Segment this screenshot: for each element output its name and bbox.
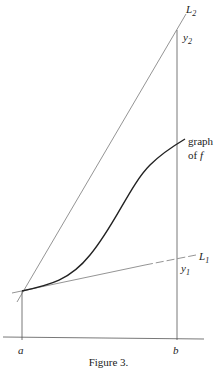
figure-caption: Figure 3. [0,356,217,368]
label-L1: L1 [199,251,209,265]
graph-of-f-curve [22,139,185,291]
label-of-f: of f [188,150,203,161]
label-a: a [18,345,24,356]
label-b: b [173,345,179,356]
x-axis-baseline [3,337,204,339]
label-y2: y2 [183,32,192,46]
label-L2: L2 [186,4,196,18]
line-L2 [17,14,186,302]
label-graph: graph [188,136,213,147]
figure-diagram [0,0,217,373]
label-y1: y1 [181,263,190,277]
